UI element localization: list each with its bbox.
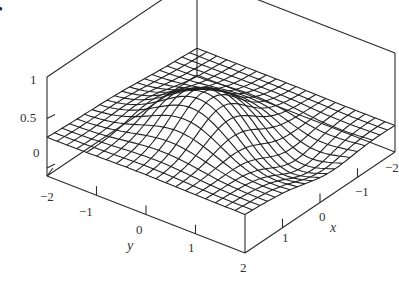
y-axis-label: y bbox=[125, 238, 134, 253]
surface-plot: 1 0.5 0 −2 −1 0 y 1 2 1 0 x −1 −2 bbox=[0, 0, 399, 281]
y-tick-label-minus-2: −2 bbox=[40, 189, 54, 204]
z-tick-label-0.5: 0.5 bbox=[20, 110, 36, 125]
z-tick-label-0: 0 bbox=[33, 145, 40, 160]
box-edge-top-left bbox=[47, 0, 197, 77]
x-tick-label-minus-2: −2 bbox=[385, 160, 399, 175]
x-tick-label-1: 1 bbox=[282, 230, 289, 245]
z-tick-label-1: 1 bbox=[30, 72, 37, 87]
x-axis-label: x bbox=[329, 220, 337, 235]
x-tick-label-minus-1: −1 bbox=[355, 184, 369, 199]
y-tick-label-0: 0 bbox=[136, 222, 143, 237]
x-tick-label-0: 0 bbox=[319, 209, 326, 224]
y-tick-label-minus-1: −1 bbox=[79, 204, 93, 219]
corner-tick-label-2: 2 bbox=[240, 260, 247, 275]
y-tick-label-1: 1 bbox=[188, 240, 195, 255]
plot-box-front bbox=[47, 53, 395, 253]
box-edge-top-right bbox=[197, 0, 395, 53]
